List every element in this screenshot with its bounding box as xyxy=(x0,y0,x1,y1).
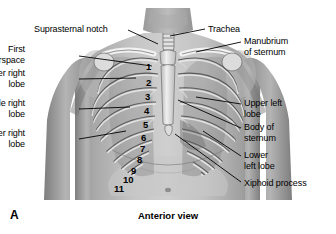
label-suprasternal-notch: Suprasternal notch xyxy=(34,24,108,35)
rib-number-2: 2 xyxy=(146,78,151,87)
figure-caption: Anterior view xyxy=(0,210,336,221)
label-xiphoid-process: Xiphoid process xyxy=(244,178,307,189)
rib-number-7: 7 xyxy=(140,144,145,153)
label-lower-left-lobe: Lower left lobe xyxy=(244,150,275,171)
label-lower-right-lobe: Lower right lobe xyxy=(0,128,25,149)
label-middle-right-lobe: Middle right lobe xyxy=(0,98,25,119)
label-upper-left-lobe: Upper left lobe xyxy=(244,98,282,119)
rib-number-3: 3 xyxy=(145,92,150,101)
rib-number-11: 11 xyxy=(114,184,124,193)
rib-number-10: 10 xyxy=(123,175,134,184)
label-body-of-sternum: Body of sternum xyxy=(244,122,276,143)
label-manubrium-of-sternum: Manubrium of sternum xyxy=(244,36,288,57)
rib-number-8: 8 xyxy=(137,155,142,164)
rib-number-1: 1 xyxy=(146,62,151,71)
rib-number-6: 6 xyxy=(141,133,146,142)
label-first-interspace: First interspace xyxy=(0,44,25,65)
label-upper-right-lobe: Upper right lobe xyxy=(0,68,25,89)
rib-number-4: 4 xyxy=(144,106,149,115)
label-trachea: Trachea xyxy=(208,24,240,35)
rib-number-5: 5 xyxy=(143,120,148,129)
